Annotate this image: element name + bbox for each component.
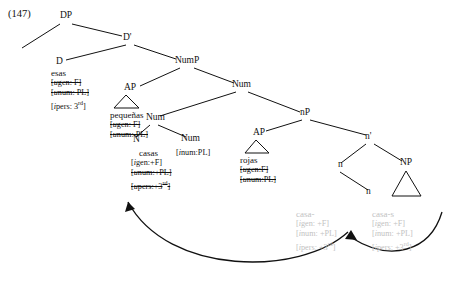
rojas-word: rojas	[240, 155, 276, 165]
node-Dbar: D'	[123, 32, 132, 43]
node-n-1: n	[338, 159, 343, 170]
casas-word: casas	[139, 148, 172, 158]
esas-feature-1: [unum: PL]	[51, 88, 89, 98]
ghost-right-feature-0: [igen: +F]	[372, 219, 413, 229]
rojas-feature-0: [ugen:F]	[240, 165, 276, 175]
ghost-left-feature-0: [igen: +F]	[296, 219, 337, 229]
node-Num-2: Num	[146, 112, 165, 123]
node-AP-2: AP	[253, 127, 265, 138]
node-AP-1: AP	[124, 82, 136, 93]
pequenas-feature-0: [ugen: F]	[110, 120, 148, 130]
syntax-tree-diagram: (147) DP D' D NumP	[0, 0, 458, 294]
node-nP: nP	[300, 107, 310, 118]
node-NumP: NumP	[175, 55, 199, 66]
casas-feature-2: [upers:+3rd]	[131, 178, 172, 192]
esas-feature-0: [ugen: F]	[51, 78, 89, 88]
ghost-block-right: casa-s [igen: +F] [inum: +PL] [ipers: +3…	[372, 209, 413, 253]
ghost-left-feature-2: [ipers: +3rd]	[296, 239, 337, 253]
rojas-feature-1: [unum:PL]	[240, 175, 276, 185]
node-n-2: n	[366, 186, 371, 197]
ghost-left-feature-1: [inum: +PL]	[296, 229, 337, 239]
pequenas-word: pequeñas	[110, 110, 148, 120]
node-Num-3: Num	[181, 133, 200, 144]
ghost-right-feature-1: [inum: +PL]	[372, 229, 413, 239]
casas-feature-0: [igen:+F]	[131, 158, 172, 168]
ghost-right-feature-2: [ipers: +3rd]	[372, 239, 413, 253]
terminal-rojas: rojas [ugen:F] [unum:PL]	[240, 155, 276, 185]
node-DP: DP	[60, 10, 72, 21]
terminal-casas: casas [igen:+F] [unum:+PL] [upers:+3rd]	[131, 148, 172, 192]
ghost-left-word: casa-	[296, 209, 337, 219]
terminal-esas: esas [ugen: F] [unum: PL] [ipers: 3rd]	[51, 68, 89, 112]
casas-feature-1: [unum:+PL]	[131, 168, 172, 178]
node-NP: NP	[400, 157, 412, 168]
pequenas-feature-1: [unum: PL]	[110, 130, 148, 140]
esas-word: esas	[51, 68, 89, 78]
esas-feature-2: [ipers: 3rd]	[51, 98, 89, 112]
node-Num-1: Num	[232, 79, 251, 90]
num-feature: [inum:PL]	[176, 148, 210, 158]
node-D: D	[56, 56, 63, 67]
ghost-right-word: casa-s	[372, 209, 413, 219]
terminal-pequenas: pequeñas [ugen: F] [unum: PL]	[110, 110, 148, 140]
node-nbar: n'	[365, 131, 371, 142]
ghost-block-left: casa- [igen: +F] [inum: +PL] [ipers: +3r…	[296, 209, 337, 253]
